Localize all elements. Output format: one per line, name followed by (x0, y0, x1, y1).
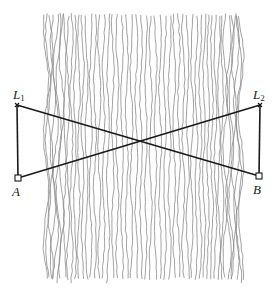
point-a-marker-icon (15, 175, 21, 181)
label-b: B (253, 183, 261, 196)
stripe-line (111, 14, 114, 278)
stripe-line (190, 14, 193, 278)
stripe-line (149, 16, 152, 280)
stripe-line (186, 15, 189, 279)
stripe-line (66, 16, 69, 280)
stripe-line (85, 16, 88, 280)
stripe-line (223, 14, 228, 278)
stripe-line (130, 14, 133, 278)
stripe-line (177, 13, 180, 277)
label-l1: L1 (13, 88, 25, 103)
stripe-line (203, 14, 206, 278)
stripe-line (70, 13, 73, 283)
stripe-line (77, 15, 80, 279)
stripe-line (207, 15, 210, 279)
stripe-line (53, 14, 59, 278)
label-l2: L2 (253, 88, 265, 103)
stripe-line (217, 16, 220, 280)
stripe-line (144, 16, 147, 280)
stripe-line (107, 13, 110, 283)
stripe-line (93, 14, 96, 278)
stripe-line (225, 15, 231, 279)
stripe-line (135, 14, 138, 278)
stripe-line (199, 15, 202, 279)
stripe-line (98, 15, 101, 279)
stripe-line (182, 14, 185, 278)
segment-l1-a (17, 105, 18, 178)
stripe-line (210, 15, 214, 279)
stripe-line (139, 15, 142, 279)
stripe-line (102, 14, 105, 278)
point-b-marker-icon (256, 173, 262, 179)
stripe-line (231, 15, 237, 279)
stripe-line (89, 14, 92, 278)
segment-l2-b (259, 105, 260, 176)
label-a: A (12, 185, 20, 198)
stripe-line (63, 13, 66, 277)
stripe-line (116, 14, 119, 278)
stripe-line (154, 16, 157, 280)
stripe-line (229, 15, 234, 279)
stripe-line (73, 15, 76, 279)
diagram-canvas (0, 0, 279, 294)
stripe-line (214, 15, 217, 279)
stripe-line (195, 16, 198, 280)
stripe-line (173, 14, 176, 278)
stripe-line (168, 16, 171, 280)
stripe-line (81, 15, 84, 279)
wavy-stripes (43, 13, 244, 283)
